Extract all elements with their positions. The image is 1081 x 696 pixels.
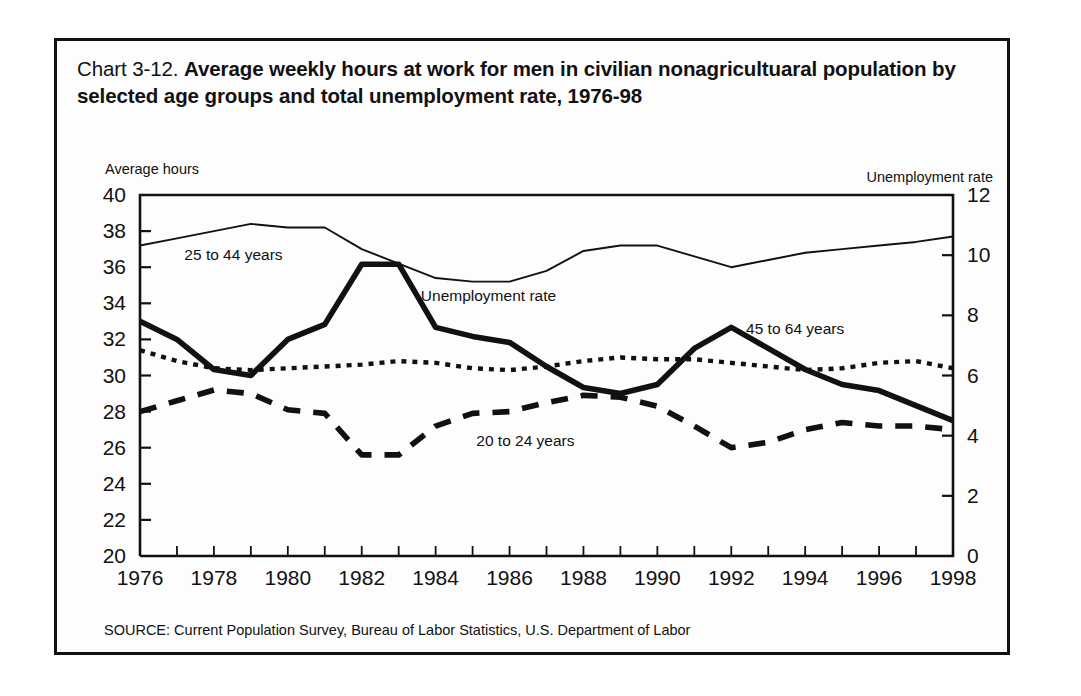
- y-axis-tick-label: 26: [103, 436, 126, 459]
- series-annotation-25-to-44-years: 25 to 44 years: [184, 246, 282, 263]
- x-axis-tick-label: 1986: [486, 566, 533, 589]
- chart-figure-frame: Chart 3-12. Average weekly hours at work…: [54, 38, 1010, 655]
- y-axis-tick-label: 38: [103, 219, 126, 242]
- x-axis-tick-label: 1976: [117, 566, 164, 589]
- x-axis-tick-label: 1992: [708, 566, 755, 589]
- x-axis-tick-label: 1998: [930, 566, 977, 589]
- y-axis-tick-label: 40: [103, 183, 126, 206]
- x-axis-tick-label: 1990: [634, 566, 681, 589]
- y2-axis-tick-label: 12: [967, 183, 990, 206]
- y-axis-tick-label: 28: [103, 400, 126, 423]
- x-axis-tick-label: 1994: [782, 566, 829, 589]
- y2-axis-tick-label: 6: [967, 364, 979, 387]
- x-axis-tick-label: 1982: [338, 566, 385, 589]
- y2-axis-tick-label: 8: [967, 303, 979, 326]
- y-axis-tick-label: 32: [103, 327, 126, 350]
- y2-axis-tick-label: 0: [967, 544, 979, 567]
- source-note: SOURCE: Current Population Survey, Burea…: [104, 622, 690, 638]
- x-axis-tick-label: 1980: [264, 566, 311, 589]
- x-axis-tick-label: 1978: [191, 566, 238, 589]
- y-axis-tick-label: 34: [103, 291, 127, 314]
- y-axis-tick-label: 20: [103, 544, 126, 567]
- y-axis-tick-label: 36: [103, 255, 126, 278]
- plot-area: 2022242628303234363840024681012197619781…: [57, 41, 1013, 658]
- x-axis-tick-label: 1996: [856, 566, 903, 589]
- series-annotation-unemployment-rate: Unemployment rate: [421, 287, 556, 304]
- y-axis-tick-label: 24: [103, 472, 127, 495]
- series-annotation-20-to-24-years: 20 to 24 years: [476, 432, 574, 449]
- y2-axis-tick-label: 2: [967, 484, 979, 507]
- chart-svg: 2022242628303234363840024681012197619781…: [57, 41, 1013, 658]
- x-axis-tick-label: 1988: [560, 566, 607, 589]
- series-annotation-45-to-64-years: 45 to 64 years: [746, 320, 844, 337]
- y2-axis-tick-label: 4: [967, 424, 979, 447]
- y-axis-tick-label: 22: [103, 508, 126, 531]
- y-axis-tick-label: 30: [103, 364, 126, 387]
- x-axis-tick-label: 1984: [412, 566, 459, 589]
- y2-axis-tick-label: 10: [967, 243, 990, 266]
